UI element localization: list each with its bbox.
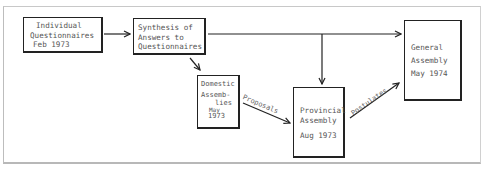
node-line: Assembly bbox=[411, 56, 460, 66]
node-line: Questionnaires bbox=[138, 42, 204, 52]
node-line: Provincial bbox=[300, 106, 343, 116]
node-line: General bbox=[411, 43, 460, 53]
node-line: Aug 1973 bbox=[300, 131, 343, 141]
node-line: Feb 1973 bbox=[30, 40, 101, 50]
node-synthesis-of-answers: Synthesis of Answers to Questionnaires bbox=[133, 18, 206, 55]
node-individual-questionnaires: Individual Questionnaires Feb 1973 bbox=[23, 17, 103, 53]
node-line: Answers to bbox=[138, 33, 204, 43]
node-provincial-assembly: Provincial Assembly Aug 1973 bbox=[293, 87, 345, 158]
node-general-assembly: General Assembly May 1974 bbox=[404, 20, 462, 101]
node-line: Assembly bbox=[300, 116, 343, 126]
node-line: May 1974 bbox=[411, 69, 460, 79]
node-domestic-assemblies: Domestic Assemb- lies May 1973 bbox=[197, 75, 240, 129]
node-line: 1973 bbox=[201, 112, 238, 120]
node-line: Assemb- bbox=[201, 91, 238, 99]
node-line: Domestic bbox=[201, 80, 238, 88]
node-line: Synthesis of bbox=[138, 23, 204, 33]
node-line: Questionnaires bbox=[30, 31, 101, 41]
node-line: Individual bbox=[30, 21, 101, 31]
